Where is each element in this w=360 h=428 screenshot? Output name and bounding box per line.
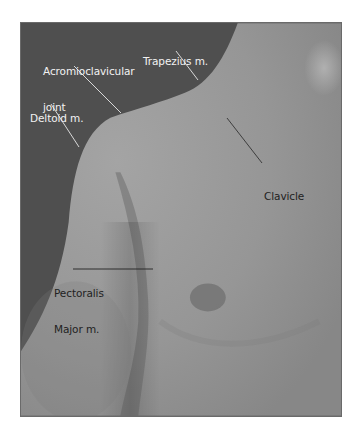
label-deltoid: Deltoid m.	[30, 88, 84, 148]
label-line: Pectoralis	[54, 287, 104, 299]
label-line: Trapezius m.	[143, 55, 208, 67]
label-line: Clavicle	[264, 190, 304, 202]
label-clavicle: Clavicle	[264, 166, 304, 226]
anatomy-photo: Acromioclavicular joint Trapezius m. Del…	[20, 22, 342, 417]
label-line: Deltoid m.	[30, 112, 84, 124]
label-line: Acromioclavicular	[43, 65, 135, 77]
label-line: Major m.	[54, 323, 104, 335]
label-trapezius: Trapezius m.	[143, 31, 208, 91]
label-pectoralis-major: Pectoralis Major m.	[54, 263, 104, 359]
